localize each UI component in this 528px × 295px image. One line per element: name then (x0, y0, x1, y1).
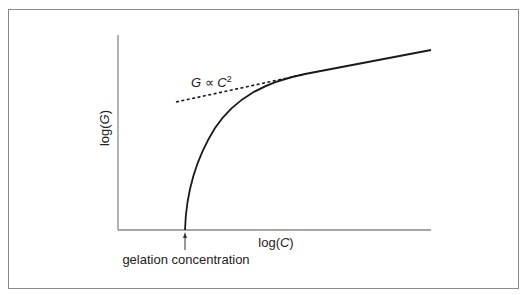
arrow-up-icon (183, 232, 187, 238)
x-axis-label: log(C) (258, 235, 293, 250)
y-axis-label: log(G) (97, 110, 112, 146)
gelation-diagram: log(G) log(C) G ∝ C2 gelation concentrat… (0, 0, 528, 295)
power-law-annotation: G ∝ C2 (191, 74, 232, 90)
gelation-concentration-label: gelation concentration (122, 252, 249, 267)
